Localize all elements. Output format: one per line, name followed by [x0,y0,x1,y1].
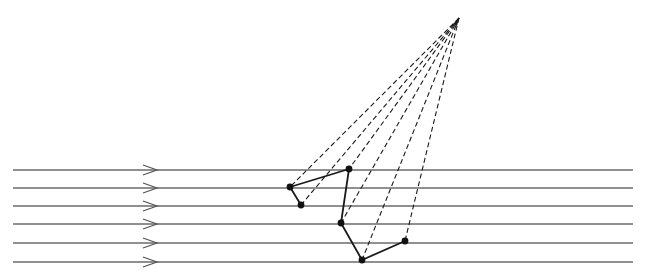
vertex-dot [298,202,305,209]
diagram-svg [0,0,647,280]
parallel-rays [13,165,633,267]
ray [13,219,633,229]
polygon-edge [290,169,405,260]
projection-line [405,18,459,241]
projection-line [341,18,459,223]
vertex-dot [359,257,366,264]
ray [13,257,633,267]
ray [13,165,633,175]
ray [13,183,633,193]
ray [13,238,633,248]
ray [13,201,633,211]
polygon-chain [290,169,405,260]
vertex-dot [402,238,409,245]
vertex-dot [346,166,353,173]
projection-diagram [0,0,647,280]
projection-line [290,18,459,187]
vertex-dot [287,184,294,191]
projection-line [349,18,459,169]
vertex-dot [338,220,345,227]
